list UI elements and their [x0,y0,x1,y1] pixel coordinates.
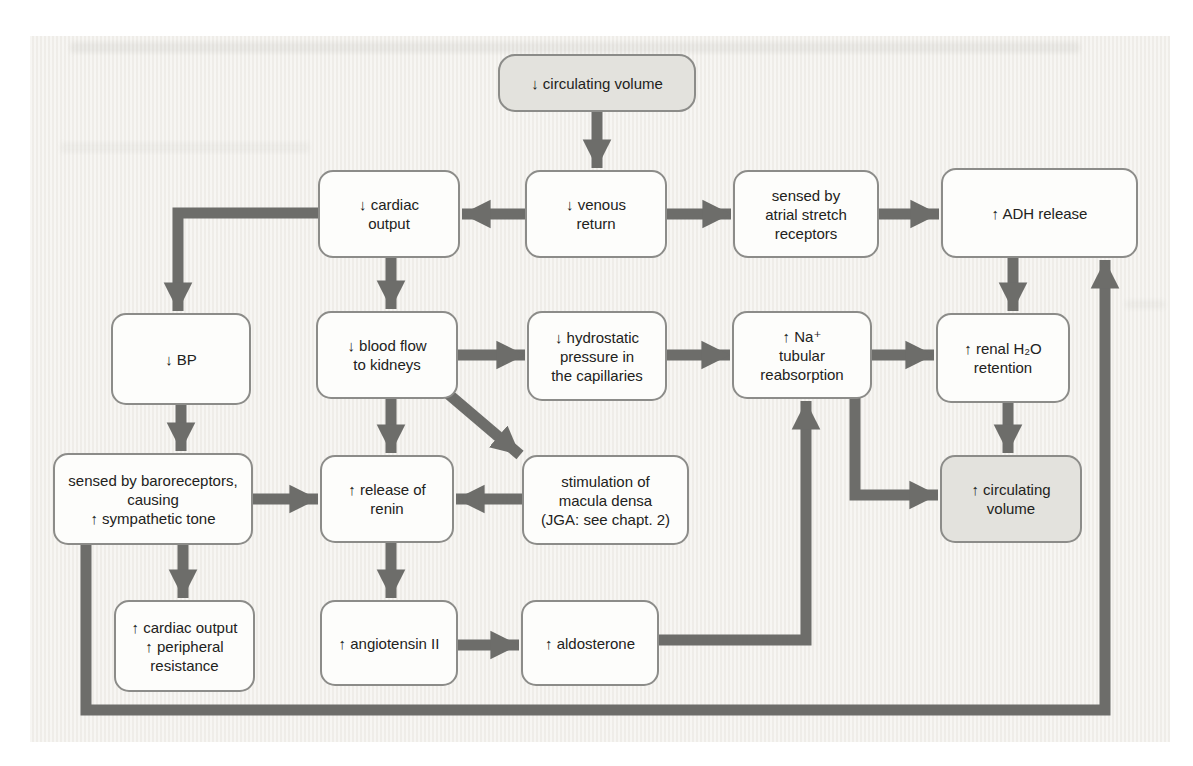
edge-na-to-circvolup [855,397,938,495]
node-angiotensin-ii-up: ↑ angiotensin II [320,600,458,686]
node-renin-release-up: ↑ release of renin [320,455,454,543]
flowchart-page: ↓ circulating volume ↓ cardiac output ↓ … [0,0,1193,766]
node-baroreceptors-sympathetic-tone: sensed by baroreceptors, causing ↑ sympa… [53,453,253,545]
node-hydrostatic-pressure-down: ↓ hydrostatic pressure in the capillarie… [527,311,667,401]
node-bp-down: ↓ BP [111,313,251,405]
node-blood-flow-kidneys-down: ↓ blood flow to kidneys [316,311,458,399]
node-cardiac-output-down: ↓ cardiac output [318,170,460,258]
node-macula-densa-stimulation: stimulation of macula densa (JGA: see ch… [522,455,689,545]
node-cardiac-output-peripheral-resistance-up: ↑ cardiac output ↑ peripheral resistance [114,600,255,692]
node-renal-h2o-retention-up: ↑ renal H₂O retention [936,313,1070,403]
node-aldosterone-up: ↑ aldosterone [521,600,659,686]
node-venous-return-down: ↓ venous return [525,170,667,258]
node-circulating-volume-down: ↓ circulating volume [498,54,696,112]
edge-cardiac-to-bp [178,213,320,311]
node-na-tubular-reabsorption-up: ↑ Na⁺ tubular reabsorption [732,311,872,399]
node-atrial-stretch-receptors: sensed by atrial stretch receptors [733,170,879,258]
node-adh-release-up: ↑ ADH release [941,168,1138,258]
node-circulating-volume-up: ↑ circulating volume [940,455,1082,543]
edge-bloodflow-to-macula [446,392,520,455]
